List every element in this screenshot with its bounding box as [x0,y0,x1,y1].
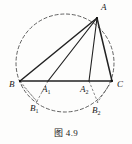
dashed-segment-a2-b2 [89,81,98,103]
dashed-segment-b-b1 [20,81,37,102]
vertex-dot-b [19,80,21,82]
dashed-segment-c-b2 [97,81,112,103]
figure-container: A B C A1 A2 B1 B2 图 4.9 [0,0,132,144]
segment-ac [97,18,112,81]
point-label-a: A [101,3,107,12]
point-label-b1: B1 [30,104,39,113]
figure-caption: 图 4.9 [0,128,132,139]
point-label-b2: B2 [92,106,101,115]
dashed-segment-b-b1-inner [21,84,38,102]
point-label-c: C [117,80,123,89]
point-label-a2: A2 [80,85,89,94]
point-label-a1: A1 [42,85,51,94]
vertex-dot-a [96,17,98,19]
vertex-dot-c [111,80,113,82]
geometry-drawing [0,0,132,126]
point-label-b: B [9,80,15,89]
